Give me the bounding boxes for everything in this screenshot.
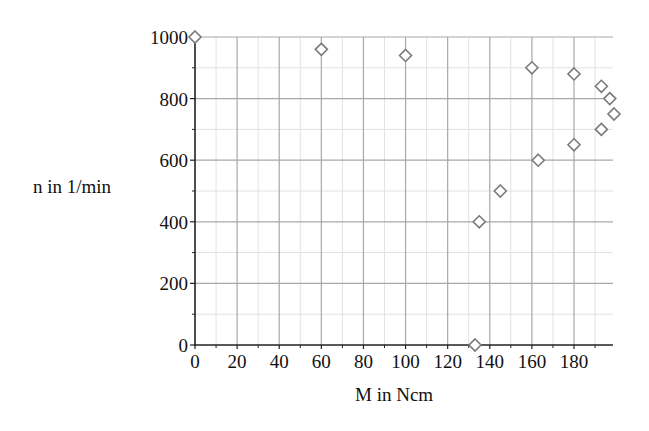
diamond-marker-icon [595,123,607,135]
y-tick-label: 800 [160,89,189,110]
diamond-marker-icon [400,49,412,61]
x-tick-label: 160 [518,351,547,372]
diamond-marker-icon [526,62,538,74]
scatter-chart: 020406080100120140160180 020040060080010… [0,0,649,431]
diamond-marker-icon [568,68,580,80]
x-tick-label: 120 [433,351,462,372]
x-axis-label: M in Ncm [355,384,433,406]
y-tick-label: 600 [160,150,189,171]
x-axis-ticks: 020406080100120140160180 [190,345,595,372]
diamond-marker-icon [494,185,506,197]
x-tick-label: 80 [354,351,373,372]
diamond-marker-icon [473,216,485,228]
x-tick-label: 140 [476,351,505,372]
y-tick-label: 1000 [150,27,188,48]
x-tick-label: 180 [560,351,589,372]
y-tick-label: 0 [179,335,189,356]
plot-area: 020406080100120140160180 020040060080010… [0,0,649,431]
diamond-marker-icon [604,93,616,105]
diamond-marker-icon [315,43,327,55]
x-tick-label: 20 [228,351,247,372]
x-tick-label: 0 [190,351,200,372]
diamond-marker-icon [568,139,580,151]
diamond-marker-icon [469,339,481,351]
x-tick-label: 40 [270,351,289,372]
y-axis-ticks: 02004006008001000 [150,27,195,356]
x-tick-label: 100 [391,351,420,372]
diamond-marker-icon [532,154,544,166]
y-tick-label: 200 [160,273,189,294]
y-tick-label: 400 [160,212,189,233]
diamond-marker-icon [608,108,620,120]
diamond-marker-icon [189,31,201,43]
y-axis-label: n in 1/min [33,176,111,198]
x-tick-label: 60 [312,351,331,372]
diamond-marker-icon [595,80,607,92]
minor-gridlines [195,37,613,345]
